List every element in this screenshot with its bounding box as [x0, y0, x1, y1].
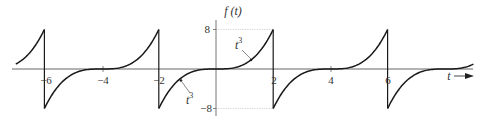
tick-label-neg2: −2 — [153, 74, 165, 86]
periodic-cubic-plot: −6 −4 −2 2 4 6 8 −8 f (t) t t3 t3 — [0, 0, 490, 124]
annotation-dot-upper — [250, 59, 253, 62]
annotation-upper: t3 — [235, 36, 242, 52]
annotation-lower: t3 — [186, 91, 193, 107]
x-axis-arrow-icon — [465, 73, 474, 79]
tick-label-2: 2 — [271, 74, 277, 86]
annotation-lower-exp: 3 — [189, 91, 193, 100]
tick-label-neg6: −6 — [40, 74, 52, 86]
tick-label-8: 8 — [205, 23, 211, 35]
annotation-upper-exp: 3 — [238, 36, 242, 45]
tick-label-neg8: −8 — [200, 102, 212, 114]
tick-label-4: 4 — [328, 74, 334, 86]
tick-label-neg4: −4 — [97, 74, 109, 86]
x-axis-label: t — [447, 69, 451, 83]
annotation-dot-lower — [180, 79, 183, 82]
y-axis-label: f (t) — [224, 4, 242, 18]
annotation-arrow-upper — [242, 50, 251, 59]
tick-label-6: 6 — [385, 74, 391, 86]
curve-segment — [388, 64, 474, 108]
curve-segment — [16, 29, 45, 64]
